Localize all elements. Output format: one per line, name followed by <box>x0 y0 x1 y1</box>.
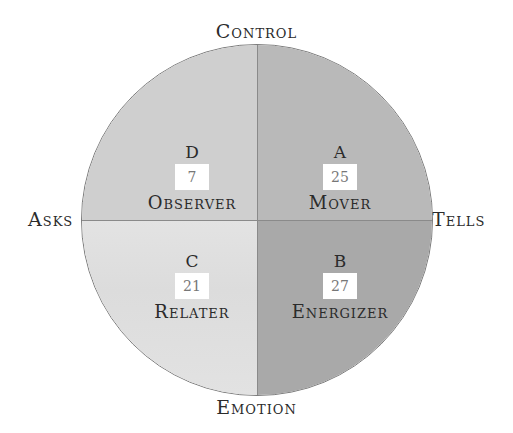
quadrant-letter: A <box>270 142 410 162</box>
quadrant-name: Observer <box>122 192 262 214</box>
axis-label-tells: Tells <box>432 208 485 230</box>
axis-label-asks: Asks <box>28 208 73 230</box>
horizontal-divider <box>82 220 432 221</box>
quadrant-circle: D 7 Observer A 25 Mover C 21 Relater B 2… <box>81 44 433 396</box>
quadrant-name: Mover <box>270 192 410 214</box>
quadrant-score: 21 <box>175 273 209 299</box>
quadrant-name: Energizer <box>270 301 410 323</box>
quadrant-score: 25 <box>323 164 357 190</box>
axis-label-control: Control <box>0 20 513 42</box>
quadrant-c-content: C 21 Relater <box>122 251 262 323</box>
quadrant-letter: C <box>122 251 262 271</box>
quadrant-score: 7 <box>175 164 209 190</box>
quadrant-letter: D <box>122 142 262 162</box>
quadrant-b-content: B 27 Energizer <box>270 251 410 323</box>
axis-label-emotion: Emotion <box>0 396 513 418</box>
quadrant-name: Relater <box>122 301 262 323</box>
quadrant-letter: B <box>270 251 410 271</box>
quadrant-a-content: A 25 Mover <box>270 142 410 214</box>
quadrant-d-content: D 7 Observer <box>122 142 262 214</box>
quadrant-score: 27 <box>323 273 357 299</box>
